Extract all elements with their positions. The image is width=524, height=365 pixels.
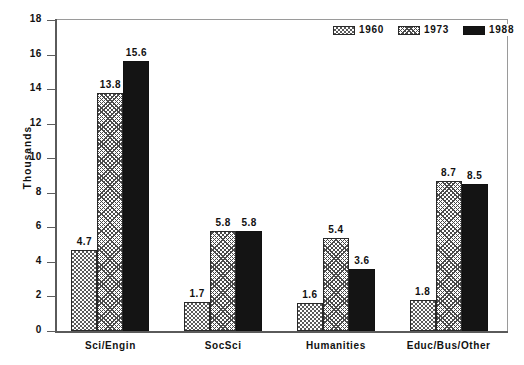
bar-value-label: 15.6 xyxy=(126,47,147,58)
legend-label: 1973 xyxy=(424,25,449,35)
bar: 4.7 xyxy=(71,250,97,331)
bar-value-label: 5.8 xyxy=(241,217,256,228)
y-axis-tick: 10 xyxy=(0,158,55,159)
y-axis-tick-mark xyxy=(47,193,55,194)
y-axis-tick: 6 xyxy=(0,227,55,228)
legend-swatch xyxy=(398,26,420,35)
bar: 8.5 xyxy=(462,184,488,331)
y-axis-tick-label: 8 xyxy=(36,186,42,197)
bar-value-label: 3.6 xyxy=(354,255,369,266)
chart-legend: 196019731988 xyxy=(331,24,516,36)
legend-swatch xyxy=(463,26,485,35)
legend-swatch xyxy=(333,26,355,35)
y-axis-tick-mark xyxy=(47,55,55,56)
y-axis-tick-label: 6 xyxy=(36,220,42,231)
x-axis-line xyxy=(55,331,508,333)
bar: 1.6 xyxy=(297,303,323,331)
x-axis-category-label: SocSci xyxy=(205,340,242,351)
x-axis-category-labels: Sci/EnginSocSciHumanitiesEduc/Bus/Other xyxy=(56,340,507,360)
bar-value-label: 1.8 xyxy=(415,286,430,297)
legend-label: 1988 xyxy=(489,25,514,35)
legend-item: 1973 xyxy=(398,25,449,35)
y-axis-tick-label: 0 xyxy=(36,324,42,335)
legend-label: 1960 xyxy=(359,25,384,35)
y-axis-tick: 14 xyxy=(0,89,55,90)
y-axis-tick: 18 xyxy=(0,20,55,21)
y-axis-tick: 4 xyxy=(0,262,55,263)
bar: 13.8 xyxy=(97,93,123,331)
y-axis-tick-label: 12 xyxy=(30,117,42,128)
y-axis-tick-mark xyxy=(47,89,55,90)
bar: 1.8 xyxy=(410,300,436,331)
bar-value-label: 1.7 xyxy=(189,288,204,299)
y-axis-tick: 2 xyxy=(0,296,55,297)
bar-value-label: 8.5 xyxy=(467,170,482,181)
bar-value-label: 5.4 xyxy=(328,224,343,235)
y-axis-tick-mark xyxy=(47,158,55,159)
y-axis-tick: 16 xyxy=(0,55,55,56)
x-axis-category-label: Educ/Bus/Other xyxy=(407,340,491,351)
bar: 8.7 xyxy=(436,181,462,331)
bar-chart: Thousands 181614121086420 4.713.815.61.7… xyxy=(0,0,524,365)
y-axis-tick: 0 xyxy=(0,331,55,332)
y-axis-tick-mark xyxy=(47,262,55,263)
y-axis-tick-mark xyxy=(47,296,55,297)
y-axis-tick-label: 10 xyxy=(30,151,42,162)
legend-item: 1960 xyxy=(333,25,384,35)
bar-value-label: 8.7 xyxy=(441,167,456,178)
y-axis-tick-mark xyxy=(47,124,55,125)
y-axis-tick-mark xyxy=(47,227,55,228)
y-axis-tick-label: 14 xyxy=(30,82,42,93)
bar: 3.6 xyxy=(349,269,375,331)
bar: 5.4 xyxy=(323,238,349,331)
y-axis-tick-label: 18 xyxy=(30,13,42,24)
bar-value-label: 1.6 xyxy=(302,289,317,300)
x-axis-category-label: Sci/Engin xyxy=(85,340,136,351)
bar: 15.6 xyxy=(123,61,149,331)
legend-item: 1988 xyxy=(463,25,514,35)
bar-value-label: 5.8 xyxy=(215,217,230,228)
bar: 5.8 xyxy=(210,231,236,331)
bar-value-label: 4.7 xyxy=(77,236,92,247)
bar: 1.7 xyxy=(184,302,210,331)
bar: 5.8 xyxy=(236,231,262,331)
y-axis-tick-label: 4 xyxy=(36,255,42,266)
bar-value-label: 13.8 xyxy=(100,79,121,90)
y-axis-tick-label: 16 xyxy=(30,48,42,59)
y-axis-tick-mark xyxy=(47,331,55,332)
y-axis-tick: 8 xyxy=(0,193,55,194)
bars-layer: 4.713.815.61.75.85.81.65.43.61.88.78.5 xyxy=(56,20,507,331)
y-axis-tick-mark xyxy=(47,20,55,21)
y-axis-tick: 12 xyxy=(0,124,55,125)
x-axis-category-label: Humanities xyxy=(306,340,366,351)
y-axis-tick-label: 2 xyxy=(36,289,42,300)
